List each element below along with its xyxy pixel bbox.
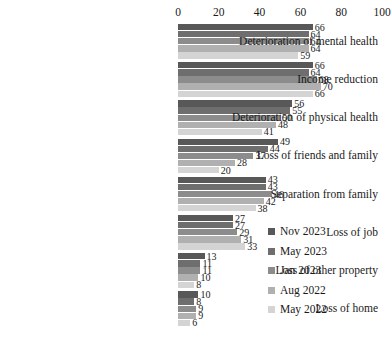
x-axis-tick: 20: [213, 5, 225, 19]
bar-value-label: 38: [256, 204, 268, 214]
category-label: Separation from family: [204, 188, 382, 201]
x-axis-tick: 100: [373, 5, 390, 19]
bar-row: 49: [178, 139, 382, 146]
bar-row: 56: [178, 100, 382, 107]
bar-value-label: 33: [245, 242, 257, 252]
bar: [178, 298, 194, 304]
bar-value-label: 41: [262, 127, 274, 137]
legend-label: May 2023: [280, 245, 327, 258]
bar: [178, 62, 313, 68]
bar-row: 66: [178, 24, 382, 31]
legend-label: Aug 2022: [280, 284, 326, 297]
bar-row: 66: [178, 91, 382, 98]
category-label: Income reduction: [204, 73, 382, 86]
bar-row: 66: [178, 62, 382, 69]
x-axis-tick: 60: [295, 5, 307, 19]
bar: [178, 139, 278, 145]
bar: [178, 205, 256, 211]
legend-swatch-icon: [268, 287, 275, 294]
bar: [178, 177, 266, 183]
bar-value-label: 59: [298, 51, 310, 61]
x-axis-tick: 40: [254, 5, 266, 19]
bar-row: 41: [178, 129, 382, 136]
bar-row: 59: [178, 52, 382, 59]
legend-item[interactable]: Aug 2022: [268, 281, 327, 301]
bar-row: 6: [178, 320, 382, 327]
bar: [178, 91, 313, 97]
legend-swatch-icon: [268, 248, 275, 255]
bar: [178, 129, 262, 135]
bar: [178, 167, 219, 173]
x-axis-tick: 0: [175, 5, 181, 19]
category-label: Loss of other property: [204, 264, 382, 277]
bar: [178, 260, 200, 266]
bar-row: 43: [178, 177, 382, 184]
bar: [178, 215, 233, 221]
bar-row: 38: [178, 205, 382, 212]
bar: [178, 267, 200, 273]
bar: [178, 282, 194, 288]
bar-value-label: 6: [190, 318, 197, 328]
bar: [178, 100, 292, 106]
category-label: Deterioration of mental health: [204, 35, 382, 48]
category-label: Deterioration of physical health: [204, 111, 382, 124]
category-label: Loss of job: [204, 226, 382, 239]
bar: [178, 306, 196, 312]
bar-value-label: 20: [219, 165, 231, 175]
bar: [178, 320, 190, 326]
bar: [178, 243, 245, 249]
bar: [178, 24, 313, 30]
category-label: Loss of friends and family: [204, 149, 382, 162]
bar-row: 20: [178, 167, 382, 174]
category-label: Loss of home: [204, 302, 382, 315]
bar: [178, 52, 298, 58]
x-axis: 020406080100: [178, 5, 382, 21]
x-axis-tick: 80: [335, 5, 347, 19]
legend-item[interactable]: May 2023: [268, 242, 327, 262]
bar-value-label: 66: [313, 89, 325, 99]
